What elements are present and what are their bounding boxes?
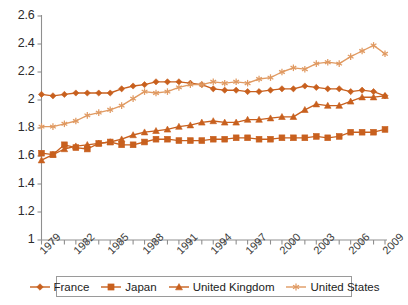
marker-square (291, 135, 297, 141)
marker-star (359, 48, 365, 55)
marker-square (176, 138, 182, 144)
marker-diamond (96, 90, 102, 96)
marker-diamond (36, 283, 43, 290)
data-series-layer (38, 42, 388, 163)
marker-square (222, 136, 228, 142)
legend-item-japan[interactable]: Japan (100, 281, 156, 293)
y-axis-tick-label: 1.6 (18, 148, 35, 162)
marker-diamond (130, 83, 136, 89)
marker-diamond (153, 79, 159, 85)
marker-diamond (245, 89, 251, 95)
marker-triangle (302, 107, 309, 113)
marker-square (165, 136, 171, 142)
marker-square (268, 136, 274, 142)
y-axis-tick-label: 2 (28, 92, 35, 106)
y-axis-tick-label: 1.8 (18, 120, 35, 134)
marker-square (130, 142, 136, 148)
series-japan (39, 127, 388, 158)
marker-square (256, 136, 262, 142)
legend-item-france[interactable]: France (29, 281, 90, 293)
plot-area (0, 0, 408, 305)
marker-diamond (359, 87, 365, 93)
marker-square (359, 129, 365, 135)
marker-star (119, 102, 125, 109)
triangle-marker-icon (168, 281, 190, 293)
marker-square (336, 134, 342, 140)
legend-item-label: United Kingdom (193, 281, 275, 293)
y-axis-tick-label: 1.4 (18, 176, 35, 190)
marker-diamond (38, 91, 44, 97)
marker-square (245, 135, 251, 141)
marker-square (199, 138, 205, 144)
marker-square (371, 129, 377, 135)
legend-item-united-kingdom[interactable]: United Kingdom (168, 281, 275, 293)
square-marker-icon (100, 281, 122, 293)
marker-square (142, 139, 148, 145)
chart-legend: FranceJapanUnited KingdomUnited States (56, 276, 352, 297)
marker-diamond (176, 79, 182, 85)
marker-square (39, 150, 45, 156)
marker-diamond (256, 89, 262, 95)
marker-square (382, 127, 388, 133)
marker-star (371, 42, 377, 49)
marker-diamond (164, 79, 170, 85)
marker-square (187, 138, 193, 144)
legend-item-label: France (54, 281, 90, 293)
marker-square (119, 142, 125, 148)
marker-star (130, 95, 136, 102)
marker-diamond (73, 90, 79, 96)
marker-diamond (290, 86, 296, 92)
series-line (42, 96, 386, 160)
marker-diamond (348, 89, 354, 95)
marker-diamond (279, 86, 285, 92)
marker-diamond (61, 91, 67, 97)
marker-square (210, 136, 216, 142)
legend-item-united-states[interactable]: United States (285, 281, 379, 293)
marker-diamond (267, 87, 273, 93)
marker-square (302, 135, 308, 141)
marker-square (279, 135, 285, 141)
y-axis-tick-label: 1 (28, 232, 35, 246)
marker-diamond (302, 83, 308, 89)
marker-star (382, 51, 388, 58)
marker-diamond (107, 90, 113, 96)
axes (38, 15, 388, 245)
diamond-marker-icon (29, 281, 51, 293)
legend-item-label: United States (310, 281, 379, 293)
marker-diamond (222, 87, 228, 93)
marker-diamond (119, 86, 125, 92)
marker-diamond (84, 90, 90, 96)
star-marker-icon (285, 281, 307, 293)
marker-diamond (141, 82, 147, 88)
marker-square (233, 135, 239, 141)
y-axis-tick-label: 2.2 (18, 64, 35, 78)
marker-diamond (210, 86, 216, 92)
marker-diamond (50, 93, 56, 99)
marker-diamond (325, 86, 331, 92)
y-axis-tick-label: 2.4 (18, 36, 35, 50)
marker-square (108, 283, 114, 289)
marker-diamond (336, 86, 342, 92)
series-united-kingdom (38, 93, 388, 163)
y-axis-tick-label: 1.2 (18, 204, 35, 218)
legend-item-label: Japan (125, 281, 156, 293)
marker-square (325, 135, 331, 141)
marker-square (153, 136, 159, 142)
marker-square (313, 134, 319, 140)
marker-star (279, 69, 285, 76)
marker-star (348, 53, 354, 60)
marker-diamond (233, 87, 239, 93)
line-chart: 2.62.42.221.81.61.41.21 1979198219851988… (0, 0, 408, 305)
marker-diamond (313, 84, 319, 90)
marker-square (348, 129, 354, 135)
y-axis-tick-label: 2.6 (18, 8, 35, 22)
marker-triangle (38, 157, 45, 163)
